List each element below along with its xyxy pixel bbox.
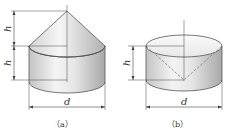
label-d-a: d <box>64 96 70 107</box>
diagram-canvas: h h d （a） h d <box>0 0 225 135</box>
label-h-cylinder: h <box>2 60 13 66</box>
caption-a: （a） <box>52 120 73 129</box>
label-h-cone: h <box>2 26 13 32</box>
figure-b: h d （b） <box>121 20 222 129</box>
label-d-b: d <box>181 96 187 107</box>
figure-a: h h d （a） <box>2 5 105 129</box>
label-h-b: h <box>121 60 132 66</box>
caption-b: （b） <box>167 120 188 129</box>
